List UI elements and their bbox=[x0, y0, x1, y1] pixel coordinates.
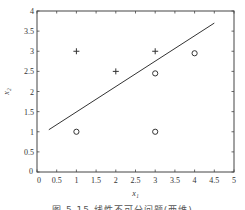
y-tick-label: 0 bbox=[29, 167, 33, 176]
x-tick-label: 4 bbox=[193, 176, 197, 185]
x-axis-label: x₁ bbox=[131, 189, 139, 198]
x-tick-label: 1.5 bbox=[91, 176, 101, 185]
y-tick-label: 0.5 bbox=[24, 148, 34, 157]
scatter-chart: 0.511.522.533.544.550.511.522.533.5400x₁… bbox=[0, 0, 245, 210]
y-tick-label: 4 bbox=[30, 7, 34, 16]
decision-line bbox=[49, 23, 214, 130]
plot-frame bbox=[37, 11, 234, 172]
x-tick-label: 3 bbox=[153, 176, 157, 185]
circle-marker bbox=[74, 129, 79, 134]
x-tick-label: 5 bbox=[232, 176, 236, 185]
y-tick-label: 3.5 bbox=[24, 27, 34, 36]
figure-caption: 图 5.15 线性不可分问题(两维) bbox=[0, 203, 245, 210]
x-tick-label: 3.5 bbox=[170, 176, 180, 185]
x-tick-label: 1 bbox=[74, 176, 78, 185]
y-axis-label: x₂ bbox=[2, 88, 11, 96]
x-tick-label: 0.5 bbox=[52, 176, 62, 185]
x-tick-label: 2 bbox=[114, 176, 118, 185]
x-tick-label: 0 bbox=[37, 176, 41, 185]
circle-marker bbox=[153, 71, 158, 76]
circle-marker bbox=[153, 129, 158, 134]
x-tick-label: 2.5 bbox=[131, 176, 141, 185]
circle-marker bbox=[192, 51, 197, 56]
y-tick-label: 2 bbox=[30, 88, 34, 97]
x-tick-label: 4.5 bbox=[209, 176, 219, 185]
y-tick-label: 1 bbox=[30, 128, 34, 137]
y-tick-label: 2.5 bbox=[24, 67, 34, 76]
y-tick-label: 3 bbox=[30, 47, 34, 56]
y-tick-label: 1.5 bbox=[24, 108, 34, 117]
